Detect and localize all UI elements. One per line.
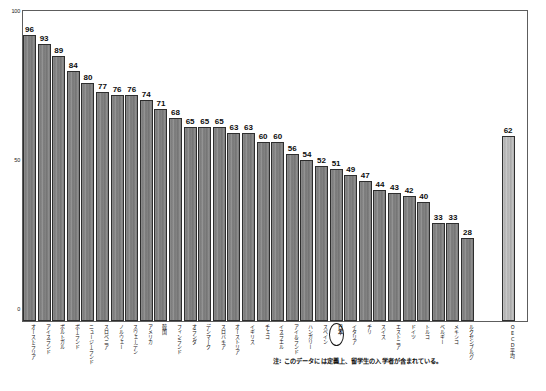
- bar: [388, 193, 401, 321]
- bar: [359, 181, 372, 321]
- bar: [96, 92, 109, 321]
- x-axis-label: トルコ: [418, 324, 430, 339]
- x-axis-label: 韓国: [155, 324, 167, 334]
- bar: [111, 95, 124, 321]
- bar: [461, 238, 474, 321]
- x-axis-label: デンマーク: [199, 324, 211, 349]
- x-axis-label: ポーランド: [67, 324, 79, 349]
- bar-item: 84: [67, 11, 80, 321]
- x-axis-label: チェコ: [257, 324, 269, 339]
- bar-item: 68: [169, 11, 182, 321]
- bar: [257, 142, 270, 321]
- bar-item: 74: [140, 11, 153, 321]
- bar-item: 65: [184, 11, 197, 321]
- bar-chart: 100500 969389848077767674716865656563636…: [0, 0, 546, 391]
- bar: [169, 118, 182, 321]
- bar-item: 76: [125, 11, 138, 321]
- bar: [67, 71, 80, 321]
- x-axis-label: スロベニア: [97, 324, 109, 349]
- bar-item: 65: [213, 11, 226, 321]
- bar: [23, 35, 36, 321]
- x-axis-label: イギリス: [243, 324, 255, 344]
- bar: [271, 142, 284, 321]
- x-axis-label: イスラエル: [272, 324, 284, 349]
- bar: [125, 95, 138, 321]
- bar-item: 60: [271, 11, 284, 321]
- bar: [184, 127, 197, 321]
- x-axis-label: ドイツ: [403, 324, 415, 339]
- bar-item: 63: [242, 11, 255, 321]
- bars-container: 9693898480777676747168656565636360605654…: [23, 11, 527, 321]
- bar: [81, 83, 94, 321]
- bar-item: 33: [432, 11, 445, 321]
- x-axis-label: 日本: [330, 324, 342, 334]
- bar: [300, 160, 313, 321]
- x-axis-label: エストニア: [389, 324, 401, 349]
- bar-item: 77: [96, 11, 109, 321]
- bar-item: 33: [446, 11, 459, 321]
- bar: [38, 44, 51, 321]
- bar: [502, 136, 515, 321]
- bar-item: 43: [388, 11, 401, 321]
- x-axis-label: オーストリア: [228, 324, 240, 354]
- bar-item: 96: [23, 11, 36, 321]
- bar-item: 42: [403, 11, 416, 321]
- bar: [403, 196, 416, 321]
- x-axis-label: アイルランド: [286, 324, 298, 354]
- x-axis-label: スペイン: [316, 324, 328, 344]
- bar: [52, 56, 65, 321]
- x-axis-label: メキシコ: [447, 324, 459, 344]
- x-axis-label: フィンランド: [170, 324, 182, 354]
- bar-item: 93: [38, 11, 51, 321]
- bar: [198, 127, 211, 321]
- x-axis-label: スイス: [374, 324, 386, 339]
- bar: [227, 133, 240, 321]
- bar: [432, 223, 445, 321]
- x-axis-label: ポルトガル: [53, 324, 65, 349]
- x-axis-label: スウェーデン: [126, 324, 138, 354]
- bar-value-label: 28: [457, 228, 479, 237]
- bar: [315, 166, 328, 321]
- bar: [446, 223, 459, 321]
- bar: [286, 154, 299, 321]
- y-axis-tick-label: 0: [0, 306, 20, 312]
- bar: [242, 133, 255, 321]
- x-axis-label: オーストラリア: [24, 324, 36, 359]
- bar-value-label: 62: [497, 126, 519, 135]
- bar-item: 56: [286, 11, 299, 321]
- x-axis-label: アメリカ: [140, 324, 152, 344]
- bar-item: 40: [417, 11, 430, 321]
- bar: [140, 100, 153, 321]
- bar-item: 62: [502, 11, 515, 321]
- bar-item: 89: [52, 11, 65, 321]
- bar-item: 54: [300, 11, 313, 321]
- x-axis-label: ニュージーランド: [82, 324, 94, 364]
- bar-item: 60: [257, 11, 270, 321]
- x-axis-label: オランダ: [184, 324, 196, 344]
- bar-item: 76: [111, 11, 124, 321]
- bar: [330, 169, 343, 321]
- bar-item: 28: [461, 11, 474, 321]
- bar-item: 80: [81, 11, 94, 321]
- x-axis-label: アイスランド: [38, 324, 50, 354]
- bar-item: 63: [227, 11, 240, 321]
- x-axis-label: ルクセンブルグ: [462, 324, 474, 359]
- x-axis-label: OECD平均: [502, 324, 514, 358]
- x-axis-label: チリ: [359, 324, 371, 334]
- x-axis-labels: オーストラリアアイスランドポルトガルポーランドニュージーランドスロベニアノルウェ…: [23, 324, 527, 382]
- x-axis-label: ハンガリー: [301, 324, 313, 349]
- bar: [373, 190, 386, 321]
- bar-item: 65: [198, 11, 211, 321]
- y-axis-tick-label: 50: [0, 157, 20, 163]
- bar-item: 71: [154, 11, 167, 321]
- x-axis-label: ベルギー: [432, 324, 444, 344]
- x-axis-label: ノルウェー: [111, 324, 123, 349]
- bar: [213, 127, 226, 321]
- bar: [154, 109, 167, 321]
- y-axis-tick-label: 100: [0, 8, 20, 14]
- x-axis-label: イタリア: [345, 324, 357, 344]
- x-axis-label: スロバキア: [213, 324, 225, 349]
- bar-item: 47: [359, 11, 372, 321]
- chart-footnote: 注: このデータには定義上、留学生の入学者が含まれている。: [273, 356, 443, 365]
- bar-item: 49: [344, 11, 357, 321]
